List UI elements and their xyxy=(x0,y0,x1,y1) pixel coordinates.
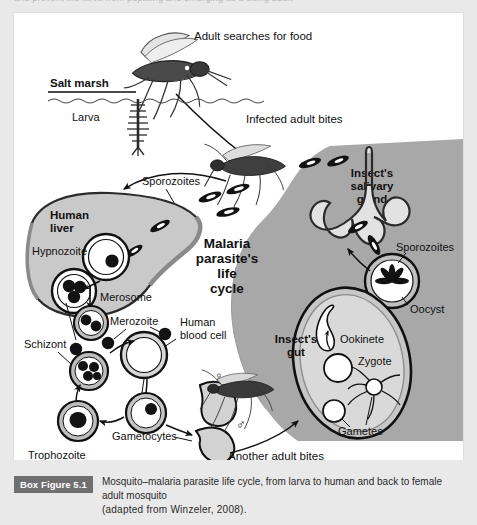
figure-caption-band: Box Figure 5.1Mosquito–malaria parasite … xyxy=(0,460,477,525)
label-trophozoite: Trophozoite xyxy=(28,449,86,460)
label-adult-searches-for-food: Adult searches for food xyxy=(194,30,312,42)
figure-number-badge: Box Figure 5.1 xyxy=(14,476,93,493)
malaria-life-cycle-diagram: Adult searches for food Salt marsh Larva… xyxy=(14,13,463,460)
label-sporozoites-human: Sporozoites xyxy=(142,175,201,187)
female-gamete xyxy=(323,400,345,422)
label-merozoite: Merozoite xyxy=(110,315,158,327)
label-male-symbol: ♂ xyxy=(236,417,246,432)
label-oocyst: Oocyst xyxy=(410,303,444,315)
caption-line-1: Mosquito–malaria parasite life cycle, fr… xyxy=(102,476,442,501)
figure-title-line3: life xyxy=(217,266,237,281)
merozoite-dot xyxy=(70,343,82,355)
merozoite-dot xyxy=(102,337,114,349)
figure-title-line2: parasite's xyxy=(196,251,259,266)
label-sporozoites-insect: Sporozoites xyxy=(396,241,455,253)
trophozoite-cell xyxy=(58,401,98,441)
label-zygote: Zygote xyxy=(358,355,392,367)
label-human-blood-cell-line2: blood cell xyxy=(180,329,226,341)
clipped-body-text: and prevent the larva from pupating and … xyxy=(14,0,292,3)
figure-title-line1: Malaria xyxy=(204,236,251,251)
label-human-liver-line1: Human xyxy=(50,209,89,221)
label-gametes: Gametes xyxy=(338,425,383,437)
label-insect-gut-line2: gut xyxy=(287,346,305,358)
label-another-adult-bites: Another adult bites xyxy=(228,450,324,460)
label-gametocytes: Gametocytes xyxy=(112,430,177,442)
caption-line-2: (adapted from Winzeler, 2008). xyxy=(102,503,454,517)
zygote xyxy=(324,354,352,382)
label-infected-adult-bites: Infected adult bites xyxy=(246,113,343,125)
figure-card: Adult searches for food Salt marsh Larva… xyxy=(14,13,463,460)
label-ookinete: Ookinete xyxy=(340,333,384,345)
label-merosome: Merosome xyxy=(100,291,152,303)
label-larva: Larva xyxy=(72,111,100,123)
merosome-cell xyxy=(74,306,108,340)
clipped-body-text-strip: and prevent the larva from pupating and … xyxy=(0,0,477,13)
label-hypnozoite: Hypnozoite xyxy=(32,245,87,257)
human-blood-cell xyxy=(121,332,167,378)
figure-caption-text: Mosquito–malaria parasite life cycle, fr… xyxy=(102,475,454,517)
label-human-blood-cell-line1: Human xyxy=(180,316,215,328)
figure-page: and prevent the larva from pupating and … xyxy=(0,0,477,525)
figure-title-line4: cycle xyxy=(210,281,244,296)
infected-hepatocyte xyxy=(83,234,129,280)
label-salt-marsh: Salt marsh xyxy=(50,77,109,89)
schizont-cell xyxy=(70,352,108,390)
label-human-liver-line2: liver xyxy=(50,222,74,234)
label-insect-gut-line1: Insect's xyxy=(275,333,317,345)
ring-stage-cell xyxy=(126,393,166,433)
label-schizont: Schizont xyxy=(24,338,66,350)
